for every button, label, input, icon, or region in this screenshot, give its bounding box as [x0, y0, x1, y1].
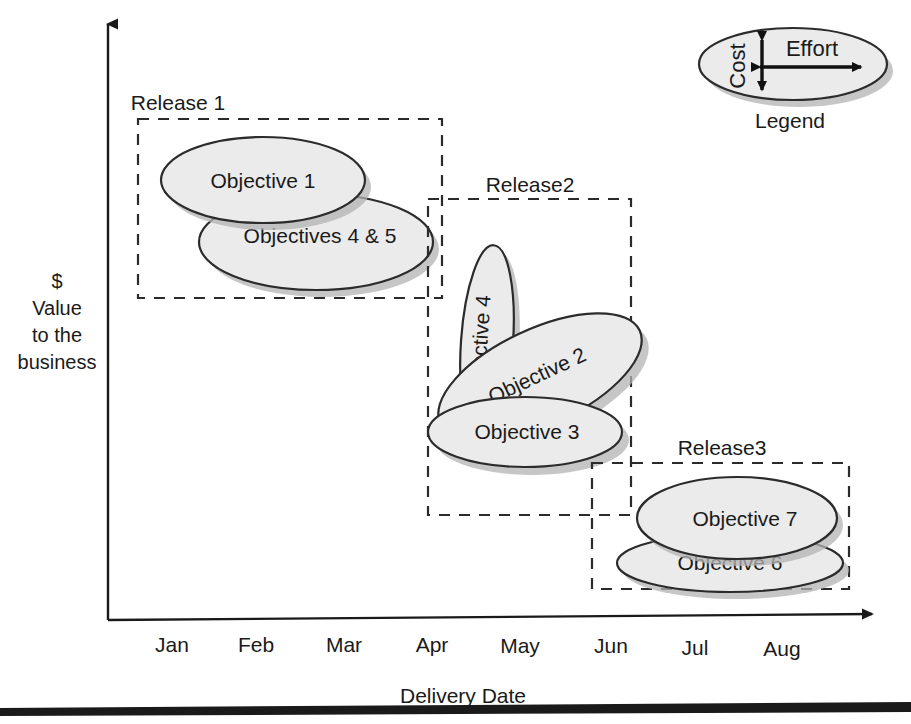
y-axis-label-line-0: $ [51, 270, 62, 292]
release-3-label: Release3 [678, 436, 767, 459]
x-tick-may: May [500, 634, 540, 657]
objective-bubble-objective-1[interactable]: Objective 1 [161, 137, 371, 230]
x-tick-mar: Mar [326, 633, 362, 656]
x-axis-label: Delivery Date [400, 684, 526, 707]
x-axis-ticks: Jan Feb Mar Apr May Jun Jul Aug [155, 633, 801, 660]
objective-bubble-label: Objective 1 [210, 169, 315, 192]
release-2-label: Release2 [486, 173, 575, 196]
legend-title: Legend [755, 109, 825, 132]
y-axis-label-line-1: Value [32, 297, 82, 319]
figure-canvas: $ Value to the business Jan Feb Mar Apr … [0, 0, 911, 724]
x-axis-line [108, 614, 872, 620]
legend: Cost Effort Legend [699, 28, 893, 132]
release-1-label: Release 1 [131, 91, 226, 114]
x-tick-feb: Feb [238, 633, 274, 656]
release-plan-diagram: $ Value to the business Jan Feb Mar Apr … [0, 0, 911, 724]
x-tick-jan: Jan [155, 633, 189, 656]
y-axis-label-line-3: business [18, 351, 97, 373]
legend-effort-label: Effort [786, 36, 838, 61]
y-axis-label: $ Value to the business [18, 270, 97, 373]
x-tick-jul: Jul [682, 636, 709, 659]
objective-bubble-label: Objective 7 [692, 507, 797, 530]
y-axis-label-line-2: to the [32, 324, 82, 346]
x-tick-jun: Jun [594, 634, 628, 657]
objective-bubble-label: Objective 3 [474, 420, 579, 443]
legend-cost-label: Cost [725, 43, 750, 88]
x-tick-apr: Apr [416, 633, 449, 656]
x-tick-aug: Aug [763, 637, 800, 660]
